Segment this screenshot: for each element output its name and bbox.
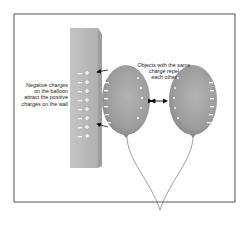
label-repulsion: Objects with the same charge repel each … bbox=[134, 62, 194, 81]
label-wall-attraction: Negative charges on the balloon attract … bbox=[14, 82, 68, 107]
repulsion-arrow bbox=[151, 99, 167, 103]
balloon-strings bbox=[127, 136, 193, 210]
diagram-canvas bbox=[0, 0, 248, 234]
diagram: Negative charges on the balloon attract … bbox=[0, 0, 248, 234]
label-line: charges on the wall bbox=[14, 101, 68, 107]
label-line: each other bbox=[134, 74, 194, 80]
wall bbox=[70, 28, 102, 168]
